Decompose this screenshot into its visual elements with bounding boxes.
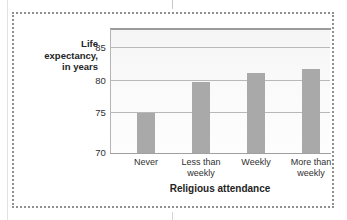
x-tick-label-less-than-weekly-line-1: Less than: [171, 157, 231, 168]
x-tick-label-less-than-weekly-line-2: weekly: [171, 168, 231, 179]
y-tick-label-85: 85: [80, 42, 106, 53]
y-tick-label-70: 70: [80, 147, 106, 158]
x-tick-label-never-line-1: Never: [116, 157, 176, 168]
x-tick-label-more-than-weekly-line-1: More than: [281, 157, 341, 168]
x-tick-label-more-than-weekly-line-2: weekly: [281, 168, 341, 179]
bar-never: [137, 113, 155, 153]
x-tick-label-weekly: Weekly: [226, 157, 286, 168]
bar-chart: Life expectancy, in years 85 80 75 70 Ne…: [0, 0, 347, 220]
x-axis-title: Religious attendance: [110, 183, 330, 194]
x-tick-label-more-than-weekly: More than weekly: [281, 157, 341, 178]
bar-more-than-weekly: [302, 69, 320, 153]
y-tick-label-80: 80: [80, 75, 106, 86]
x-axis-baseline: [110, 153, 331, 154]
gridline-85: [110, 47, 330, 48]
x-tick-label-never: Never: [116, 157, 176, 168]
bar-less-than-weekly: [192, 82, 210, 153]
bar-weekly: [247, 73, 265, 153]
x-tick-label-weekly-line-1: Weekly: [226, 157, 286, 168]
y-axis-title-line-3: in years: [18, 61, 98, 73]
y-tick-label-75: 75: [80, 107, 106, 118]
gridline-80: [110, 80, 330, 81]
x-tick-label-less-than-weekly: Less than weekly: [171, 157, 231, 178]
plot-top-border: [110, 28, 331, 30]
